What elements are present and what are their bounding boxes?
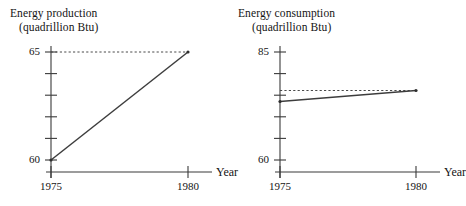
data-point-1975 xyxy=(49,158,52,161)
plot-area-energy-consumption xyxy=(232,0,465,206)
x-tick-label-end: 1980 xyxy=(391,180,441,192)
x-tick-label-start: 1975 xyxy=(26,180,76,192)
data-point-1980 xyxy=(414,89,417,92)
data-line-energy-consumption xyxy=(280,91,416,102)
y-tick-label-lower: 60 xyxy=(239,153,269,165)
y-tick-label-upper: 65 xyxy=(10,45,40,57)
chart-panel-energy-consumption: Energy consumption (quadrillion Btu) xyxy=(232,0,465,206)
data-point-1980 xyxy=(186,50,189,53)
data-line-energy-production xyxy=(51,52,188,160)
y-tick-label-upper: 85 xyxy=(239,45,269,57)
x-axis-title: Year xyxy=(444,165,466,180)
data-point-1975 xyxy=(278,100,281,103)
x-tick-label-end: 1980 xyxy=(163,180,213,192)
y-tick-label-lower: 60 xyxy=(10,153,40,165)
chart-panel-energy-production: Energy production (quadrillion Btu) xyxy=(0,0,232,206)
x-tick-label-start: 1975 xyxy=(255,180,305,192)
plot-area-energy-production xyxy=(0,0,233,206)
